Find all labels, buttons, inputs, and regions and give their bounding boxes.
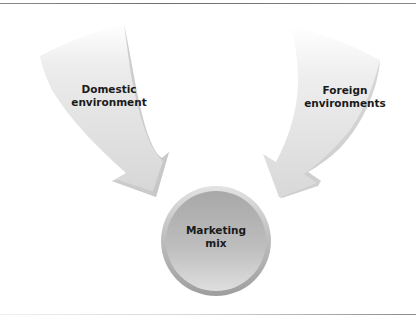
domestic-label-line1: Domestic (64, 83, 154, 96)
domestic-arrow (40, 24, 169, 197)
foreign-arrow (263, 26, 380, 198)
mix-label-line1: Marketing (176, 224, 256, 237)
domestic-label-line2: environment (64, 96, 154, 109)
marketing-mix-label: Marketing mix (176, 224, 256, 250)
foreign-label-line2: environments (300, 97, 390, 110)
mix-label-line2: mix (176, 237, 256, 250)
domestic-environment-label: Domestic environment (64, 83, 154, 109)
bottom-rule (0, 314, 416, 315)
foreign-label-line1: Foreign (300, 84, 390, 97)
foreign-environments-label: Foreign environments (300, 84, 390, 110)
diagram-canvas (0, 0, 416, 316)
